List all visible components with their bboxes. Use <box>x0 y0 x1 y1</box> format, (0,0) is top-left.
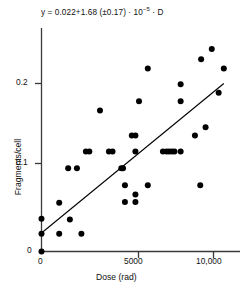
x-tick-label-10000: 10,000 <box>196 256 222 266</box>
data-point <box>120 165 126 171</box>
data-point <box>56 231 62 237</box>
data-point <box>221 65 227 71</box>
data-point <box>178 149 184 155</box>
data-point <box>145 65 151 71</box>
data-point <box>78 231 84 237</box>
data-point <box>65 165 71 171</box>
data-point <box>110 149 116 155</box>
data-point <box>171 149 177 155</box>
x-tick-label-0: 0 <box>38 256 43 266</box>
regression-fit-line <box>42 84 224 234</box>
x-tick-label-5000: 5000 <box>124 256 143 266</box>
fit-line <box>42 84 224 234</box>
data-points-group <box>39 46 227 254</box>
data-point <box>67 217 73 223</box>
y-tick-label-0: 0 <box>27 245 32 255</box>
y-tick-label-0.2: 0.2 <box>16 77 28 87</box>
data-point <box>39 249 45 255</box>
data-point <box>56 200 62 206</box>
data-point <box>132 191 138 197</box>
data-point <box>39 216 45 222</box>
data-point <box>74 165 80 171</box>
data-point <box>209 46 215 52</box>
data-point <box>178 98 184 104</box>
data-point <box>216 90 222 96</box>
data-point <box>132 133 138 139</box>
data-point <box>122 182 128 188</box>
y-axis-title: Fragments/cell <box>13 119 23 215</box>
data-point <box>198 56 204 62</box>
data-point <box>178 81 184 87</box>
data-point <box>39 231 45 237</box>
data-point <box>132 199 138 205</box>
data-point <box>192 133 198 139</box>
data-point <box>86 149 92 155</box>
data-point <box>122 199 128 205</box>
plot-area <box>0 0 246 295</box>
data-point <box>136 98 142 104</box>
data-point <box>145 182 151 188</box>
data-point <box>203 124 209 130</box>
x-axis-title: Dose (rad) <box>96 272 137 282</box>
data-point <box>97 107 103 113</box>
scatter-chart-figure: y = 0.022+1.68 (±0.17) · 10−5 · D 0.2 0.… <box>0 0 246 295</box>
data-point <box>197 182 203 188</box>
data-point <box>132 149 138 155</box>
